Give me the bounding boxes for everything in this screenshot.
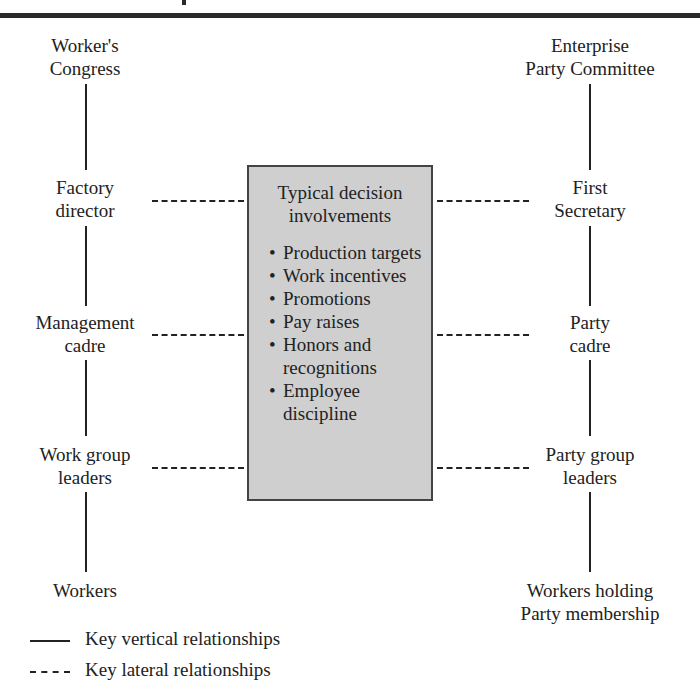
node-enterprise-party-committee: Enterprise Party Committee bbox=[490, 34, 690, 80]
vertical-line bbox=[589, 360, 591, 436]
solid-line-icon bbox=[30, 640, 70, 642]
vertical-line bbox=[85, 492, 87, 572]
lateral-connector bbox=[437, 467, 529, 469]
top-rule-stub bbox=[182, 0, 186, 5]
list-item: Work incentives bbox=[269, 264, 431, 287]
node-first-secretary: First Secretary bbox=[490, 176, 690, 222]
lateral-connector bbox=[152, 334, 244, 336]
lateral-connector bbox=[437, 334, 529, 336]
node-work-group-leaders: Work group leaders bbox=[0, 443, 185, 489]
dashed-line-icon bbox=[30, 671, 70, 673]
lateral-connector bbox=[437, 200, 529, 202]
node-party-group-leaders: Party group leaders bbox=[490, 443, 690, 489]
decision-involvements-box: Typical decision involvements Production… bbox=[247, 165, 433, 501]
list-item: Employee discipline bbox=[269, 379, 431, 425]
node-workers-party-members: Workers holding Party membership bbox=[490, 579, 690, 625]
involvement-list: Production targets Work incentives Promo… bbox=[249, 241, 431, 425]
list-item: Honors and recognitions bbox=[269, 333, 431, 379]
legend-label: Key vertical relationships bbox=[85, 628, 280, 649]
list-item: Pay raises bbox=[269, 310, 431, 333]
vertical-line bbox=[589, 84, 591, 170]
node-workers-congress: Worker's Congress bbox=[0, 34, 185, 80]
legend-lateral: Key lateral relationships bbox=[30, 658, 271, 681]
node-factory-director: Factory director bbox=[0, 176, 185, 222]
vertical-line bbox=[85, 84, 87, 170]
vertical-line bbox=[85, 226, 87, 306]
legend-vertical: Key vertical relationships bbox=[30, 627, 280, 650]
box-title: Typical decision involvements bbox=[249, 181, 431, 227]
list-item: Production targets bbox=[269, 241, 431, 264]
lateral-connector bbox=[152, 467, 244, 469]
legend-label: Key lateral relationships bbox=[85, 659, 271, 680]
vertical-line bbox=[85, 360, 87, 436]
list-item: Promotions bbox=[269, 287, 431, 310]
top-rule bbox=[0, 13, 700, 18]
lateral-connector bbox=[152, 200, 244, 202]
vertical-line bbox=[589, 492, 591, 572]
node-workers: Workers bbox=[0, 579, 185, 602]
vertical-line bbox=[589, 226, 591, 306]
